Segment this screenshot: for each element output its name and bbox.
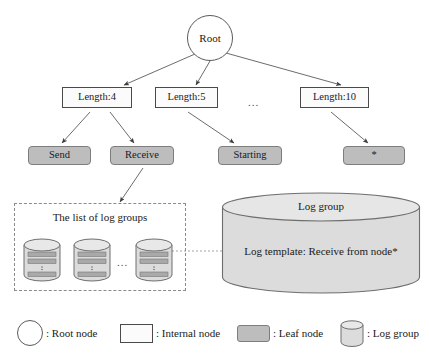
legend-item-root-node: : Root node (17, 318, 97, 348)
cylinder-icon (340, 320, 364, 347)
rectangle-icon (120, 324, 153, 343)
circle-icon (17, 320, 43, 346)
internal-nodes-ellipsis: ... (248, 96, 259, 108)
leaf-node-label: * (371, 150, 376, 161)
internal-node-length-10[interactable]: Length:10 (300, 87, 369, 108)
internal-node-length-4[interactable]: Length:4 (62, 87, 132, 108)
internal-node-label: Length:10 (313, 92, 356, 103)
log-group-mini-cylinder[interactable] (73, 238, 111, 282)
root-node[interactable]: Root (187, 15, 233, 61)
leaf-node-label: Send (49, 150, 70, 161)
edge-internal-to-leaf (62, 112, 368, 143)
diagram-canvas: Root Length:4 Length:5 ... Length:10 Sen… (0, 0, 429, 355)
log-group-list-ellipsis: ... (117, 256, 128, 268)
leaf-node-wildcard[interactable]: * (343, 146, 405, 165)
legend-item-leaf-node: : Leaf node (237, 318, 323, 348)
leaf-node-label: Starting (233, 150, 266, 161)
internal-node-label: Length:4 (78, 92, 116, 103)
legend-label: : Log group (367, 327, 419, 339)
log-group-list-title: The list of log groups (15, 211, 185, 223)
internal-node-length-5[interactable]: Length:5 (155, 87, 218, 108)
internal-node-label: Length:5 (168, 92, 206, 103)
leaf-node-receive[interactable]: Receive (110, 146, 174, 165)
log-group-cylinder-title: Log group (221, 200, 421, 212)
edge-root-to-internal (124, 53, 341, 85)
root-node-label: Root (199, 33, 220, 44)
edge-receive-to-list (120, 168, 143, 202)
legend-item-log-group: : Log group (340, 318, 419, 348)
legend-label: : Internal node (156, 327, 220, 339)
log-group-template-text: Log template: Receive from node* (221, 245, 421, 257)
legend-item-internal-node: : Internal node (120, 318, 220, 348)
leaf-node-send[interactable]: Send (28, 146, 91, 165)
log-group-mini-cylinder[interactable] (135, 238, 173, 282)
legend-label: : Leaf node (273, 327, 323, 339)
legend-label: : Root node (46, 327, 97, 339)
leaf-node-label: Receive (125, 150, 159, 161)
leaf-node-starting[interactable]: Starting (218, 146, 282, 165)
rounded-filled-rectangle-icon (237, 325, 270, 342)
legend: : Root node : Internal node : Leaf node … (0, 318, 429, 352)
log-group-mini-cylinder[interactable] (23, 238, 61, 282)
